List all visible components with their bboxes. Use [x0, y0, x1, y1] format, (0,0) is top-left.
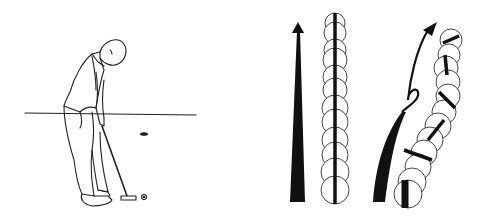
straight-arrow-icon: [290, 31, 305, 202]
horizon-line: [25, 113, 196, 115]
straight-roll-diagram: [290, 13, 349, 204]
illustration-canvas: [0, 0, 485, 218]
curved-roll-diagram: [373, 22, 462, 208]
hole-icon: [141, 133, 148, 135]
illustration-svg: [0, 0, 485, 218]
golfer-figure: [25, 40, 196, 206]
